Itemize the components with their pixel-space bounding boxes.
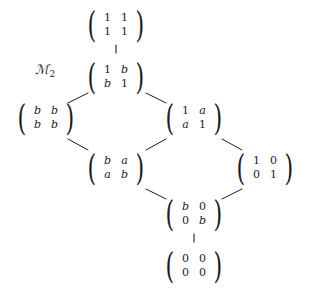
matrix-right-paren: ) — [214, 249, 223, 283]
matrix-entries: 1001 — [248, 154, 282, 182]
edge-identity-to-diag-b — [222, 189, 242, 199]
matrix-entry: 1 — [104, 26, 111, 38]
matrix-right-paren: ) — [136, 8, 145, 42]
matrix-all-b: (bbbb) — [16, 101, 76, 135]
matrix-left-paren: ( — [166, 249, 175, 283]
matrix-left-paren: ( — [18, 101, 27, 135]
matrix-left-paren: ( — [88, 8, 97, 42]
matrix-entries: baab — [99, 154, 133, 182]
matrix-entry: 0 — [270, 155, 277, 167]
matrix-entry: 1 — [199, 119, 206, 131]
matrix-entry: b — [34, 119, 41, 131]
matrix-entries: bbbb — [29, 104, 63, 132]
matrix-entry: b — [199, 215, 206, 227]
edge-all-b-to-b-a — [68, 139, 88, 150]
matrix-entry: 1 — [253, 155, 260, 167]
matrix-zero: (0000) — [164, 249, 224, 283]
matrix-entry: 0 — [182, 215, 189, 227]
matrix-entry: a — [104, 169, 111, 181]
matrix-left-paren: ( — [166, 101, 175, 135]
matrix-right-paren: ) — [285, 151, 294, 185]
matrix-entry: 0 — [253, 169, 260, 181]
matrix-entry: 1 — [182, 105, 189, 117]
matrix-entry: 0 — [199, 253, 206, 265]
matrix-right-paren: ) — [136, 60, 145, 94]
matrix-entry: 0 — [182, 267, 189, 279]
matrix-entry: b — [104, 155, 111, 167]
matrix-entries: b00b — [177, 200, 211, 228]
matrix-entry: 1 — [121, 78, 128, 90]
matrix-entry: 1 — [121, 12, 128, 24]
matrix-identity: (1001) — [235, 151, 295, 185]
matrix-entry: 1 — [104, 12, 111, 24]
matrix-entry: 0 — [199, 267, 206, 279]
matrix-all-ones: (1111) — [86, 8, 146, 42]
matrix-left-paren: ( — [88, 151, 97, 185]
matrix-entry: b — [121, 64, 128, 76]
matrix-right-paren: ) — [214, 101, 223, 135]
matrix-right-paren: ) — [214, 197, 223, 231]
matrix-left-paren: ( — [237, 151, 246, 185]
matrix-entries: 0000 — [177, 252, 211, 280]
matrix-diagonal-b: (b00b) — [164, 197, 224, 231]
matrix-entry: b — [34, 105, 41, 117]
matrix-entry: 1 — [104, 64, 111, 76]
matrix-left-paren: ( — [88, 60, 97, 94]
matrix-entry: b — [104, 78, 111, 90]
lattice-name-letter: ℳ — [35, 62, 49, 77]
edges-layer — [0, 0, 309, 292]
matrix-right-paren: ) — [66, 101, 75, 135]
matrix-right-paren: ) — [136, 151, 145, 185]
matrix-entry: b — [182, 201, 189, 213]
matrix-entry: b — [51, 119, 58, 131]
matrix-entry: 0 — [199, 201, 206, 213]
matrix-1-a-a-1: (1aa1) — [164, 101, 224, 135]
matrix-left-paren: ( — [166, 197, 175, 231]
matrix-entry: a — [121, 155, 128, 167]
matrix-entries: 1111 — [99, 11, 133, 39]
lattice-name-label: ℳ2 — [35, 62, 56, 79]
matrix-b-a-a-b: (baab) — [86, 151, 146, 185]
lattice-diagram-canvas: ℳ2 (1111)(1bb1)(bbbb)(1aa1)(baab)(1001)(… — [0, 0, 309, 292]
matrix-entry: b — [121, 169, 128, 181]
matrix-entry: a — [182, 119, 189, 131]
matrix-entry: 1 — [121, 26, 128, 38]
matrix-entries: 1aa1 — [177, 104, 211, 132]
matrix-entry: 1 — [270, 169, 277, 181]
matrix-entry: 0 — [182, 253, 189, 265]
matrix-entry: b — [51, 105, 58, 117]
edge-one-a-to-b-a — [146, 139, 166, 150]
matrix-1-b-b-1: (1bb1) — [86, 60, 146, 94]
lattice-name-subscript: 2 — [49, 68, 55, 78]
matrix-entries: 1bb1 — [99, 63, 133, 91]
matrix-entry: a — [199, 105, 206, 117]
